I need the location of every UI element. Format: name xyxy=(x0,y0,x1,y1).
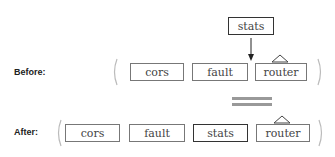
before-item-cors: cors xyxy=(130,63,184,81)
after-right-bracket xyxy=(317,119,325,147)
before-left-bracket xyxy=(111,58,119,86)
after-router-triangle-icon xyxy=(273,115,291,124)
before-right-bracket xyxy=(316,58,324,86)
equals-icon xyxy=(232,96,274,108)
after-item-router: router xyxy=(256,124,310,142)
after-label: After: xyxy=(14,127,38,137)
before-item-router: router xyxy=(255,63,307,81)
after-item-stats: stats xyxy=(193,124,248,142)
before-label: Before: xyxy=(14,67,46,77)
insert-arrow-icon xyxy=(247,38,255,62)
before-item-fault: fault xyxy=(192,63,248,81)
after-item-fault: fault xyxy=(129,124,185,142)
after-item-cors: cors xyxy=(65,124,120,142)
incoming-stats-box: stats xyxy=(228,17,274,35)
before-router-triangle-icon xyxy=(271,54,289,63)
after-left-bracket xyxy=(55,119,63,147)
